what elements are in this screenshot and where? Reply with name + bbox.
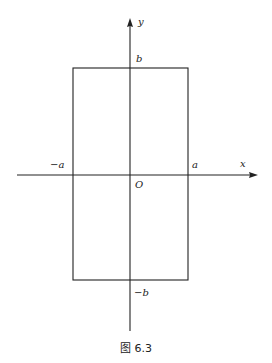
x-axis-arrow-icon — [249, 172, 258, 178]
y-axis-label: y — [137, 16, 144, 27]
tick-label-b: b — [136, 53, 142, 64]
x-axis-label: x — [240, 158, 246, 169]
origin-label: O — [135, 179, 143, 190]
diagram-canvas: y x b −b −a a O 图 6.3 — [0, 0, 272, 363]
y-axis-arrow-icon — [127, 18, 133, 27]
tick-label-neg-a: −a — [50, 159, 64, 170]
tick-label-a: a — [192, 159, 198, 170]
tick-label-neg-b: −b — [134, 287, 149, 298]
figure-caption: 图 6.3 — [120, 342, 152, 355]
